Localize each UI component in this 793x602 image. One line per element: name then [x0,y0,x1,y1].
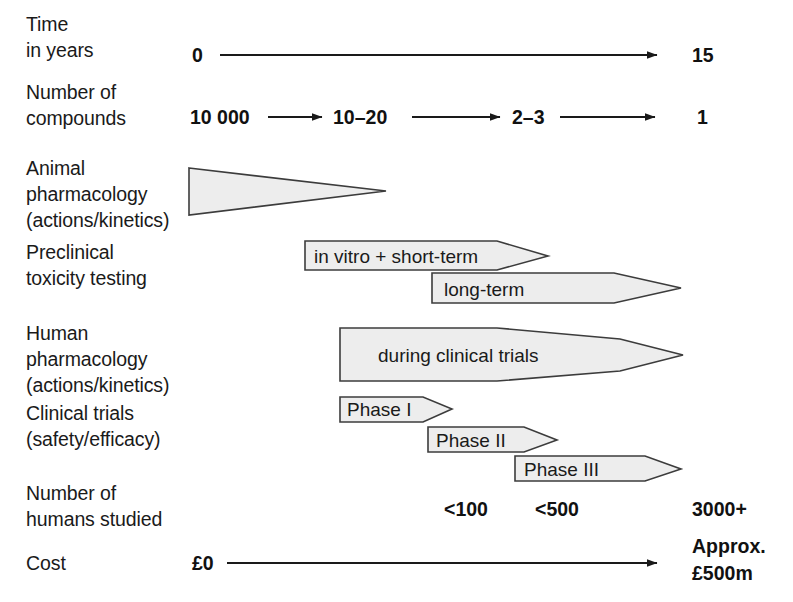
humans-studied-value-1: <100 [444,498,488,520]
row-label-time-line-2: in years [26,39,94,61]
humans-studied-value-2: <500 [535,498,579,520]
band-label-phase-iii: Phase III [524,459,599,480]
time-start-value: 0 [192,44,203,66]
cost-end-value-line-1: Approx. [692,535,766,557]
row-label-human-line-2: pharmacology [26,348,148,370]
row-label-compounds-line-2: compounds [26,107,126,129]
row-label-preclinical-line-2: toxicity testing [26,267,147,289]
row-label-time-line-1: Time [26,13,68,35]
band-animal-pharmacology-wedge [189,168,386,215]
row-preclinical-toxicity: Preclinical toxicity testing in vitro + … [26,241,681,303]
row-humans-studied: Number of humans studied <100 <500 3000+ [26,482,747,530]
humans-studied-value-3: 3000+ [692,498,747,520]
row-label-animal-line-2: pharmacology [26,183,148,205]
band-label-phase-i: Phase I [347,399,411,420]
row-cost: Cost £0 Approx. £500m [26,535,766,584]
cost-end-value-line-2: £500m [692,562,753,584]
row-label-human-line-1: Human [26,322,88,344]
row-number-of-compounds: Number of compounds 10 000 10–20 2–3 1 [26,81,708,129]
row-time-in-years: Time in years 0 15 [26,13,714,66]
compounds-value-4: 1 [697,106,708,128]
band-label-in-vitro-short-term: in vitro + short-term [314,246,478,267]
row-label-compounds-line-1: Number of [26,81,117,103]
drug-development-timeline-diagram: Time in years 0 15 Number of compounds 1… [0,0,793,602]
row-human-pharmacology: Human pharmacology (actions/kinetics) du… [26,322,683,396]
row-label-animal-line-3: (actions/kinetics) [26,209,169,231]
band-label-long-term: long-term [444,279,524,300]
row-label-humans-line-2: humans studied [26,508,162,530]
row-label-clinical-line-2: (safety/efficacy) [26,428,161,450]
cost-start-value: £0 [192,552,214,574]
row-label-cost: Cost [26,552,66,574]
compounds-value-2: 10–20 [333,106,387,128]
row-label-preclinical-line-1: Preclinical [26,241,114,263]
row-animal-pharmacology: Animal pharmacology (actions/kinetics) [26,157,386,231]
row-label-humans-line-1: Number of [26,482,117,504]
row-clinical-trials: Clinical trials (safety/efficacy) Phase … [26,397,681,481]
band-label-during-clinical-trials: during clinical trials [378,345,539,366]
row-label-clinical-line-1: Clinical trials [26,402,134,424]
row-label-animal-line-1: Animal [26,157,85,179]
row-label-human-line-3: (actions/kinetics) [26,374,169,396]
time-end-value: 15 [692,44,714,66]
compounds-value-3: 2–3 [512,106,545,128]
compounds-value-1: 10 000 [190,106,250,128]
band-label-phase-ii: Phase II [436,430,506,451]
